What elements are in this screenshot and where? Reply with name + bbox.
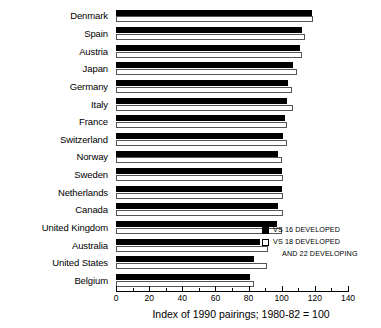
bar-group [116,168,348,184]
chart-legend: VS 16 DEVELOPED VS 18 DEVELOPED AND 22 D… [262,225,380,261]
x-tick-minor [166,288,167,291]
legend-label: VS 18 DEVELOPED [273,237,340,247]
x-tick [282,286,283,291]
bar-group [116,44,348,60]
x-tick [215,286,216,291]
x-tick-minor [331,288,332,291]
bar-developed-developing [116,263,267,269]
category-label: Japan [0,64,108,74]
x-tick [348,286,349,291]
x-tick-label: 60 [203,294,227,303]
x-axis-title: Index of 1990 pairings; 1980-82 = 100 [116,308,366,320]
bar-group [116,27,348,43]
x-tick-label: 100 [270,294,294,303]
x-axis-line [116,291,349,292]
x-tick-minor [133,288,134,291]
bar-group [116,115,348,131]
bar-developed-developing [116,157,282,163]
bar-developed-developing [116,87,292,93]
bar-developed [116,274,250,280]
category-label: Canada [0,205,108,215]
x-tick [116,286,117,291]
bar-group [116,185,348,201]
bar-group [116,150,348,166]
bar-developed-developing [116,175,283,181]
bar-developed-developing [116,52,302,58]
category-axis-labels: DenmarkSpainAustriaJapanGermanyItalyFran… [0,8,112,290]
x-tick-minor [232,288,233,291]
category-label: Australia [0,241,108,251]
category-label: Denmark [0,11,108,21]
bar-developed [116,133,283,139]
category-label: Switzerland [0,135,108,145]
bar-group [116,62,348,78]
x-tick [315,286,316,291]
bar-group [116,203,348,219]
bar-group [116,273,348,289]
legend-item-1-continuation: AND 22 DEVELOPING [262,249,380,260]
bar-developed [116,115,285,121]
bar-developed [116,186,282,192]
bar-group [116,132,348,148]
bar-developed-developing [116,34,305,40]
legend-swatch-black-icon [262,227,269,234]
bar-developed [116,221,277,227]
x-tick-label: 120 [303,294,327,303]
bar-developed [116,10,312,16]
bar-developed [116,45,300,51]
x-tick-minor [199,288,200,291]
x-tick [249,286,250,291]
bar-developed [116,256,254,262]
bar-developed [116,80,288,86]
category-label: France [0,117,108,127]
bar-developed [116,62,293,68]
x-tick-minor [298,288,299,291]
bar-developed-developing [116,16,313,22]
legend-item-1: VS 18 DEVELOPED [262,237,380,248]
category-label: Italy [0,100,108,110]
category-label: United Kingdom [0,223,108,233]
bar-developed [116,151,278,157]
category-label: Spain [0,29,108,39]
legend-label-line2: AND 22 DEVELOPING [282,249,358,259]
bar-developed-developing [116,210,283,216]
legend-item-0: VS 16 DEVELOPED [262,225,380,236]
x-tick [149,286,150,291]
bar-developed-developing [116,140,287,146]
category-label: Austria [0,47,108,57]
category-label: Norway [0,152,108,162]
bar-developed [116,203,278,209]
bar-developed [116,27,302,33]
x-tick-label: 80 [237,294,261,303]
x-tick-minor [265,288,266,291]
bar-group [116,97,348,113]
bar-developed-developing [116,105,293,111]
category-label: Netherlands [0,188,108,198]
bar-chart: DenmarkSpainAustriaJapanGermanyItalyFran… [0,0,381,328]
bar-developed [116,168,282,174]
x-tick [182,286,183,291]
bar-developed [116,239,260,245]
x-tick-label: 140 [336,294,360,303]
category-label: Sweden [0,170,108,180]
legend-swatch-white-icon [262,239,269,246]
category-label: Belgium [0,276,108,286]
bar-developed-developing [116,281,254,287]
category-label: United States [0,258,108,268]
x-tick-label: 40 [170,294,194,303]
bar-developed [116,98,287,104]
bar-developed-developing [116,228,282,234]
category-label: Germany [0,82,108,92]
bar-group [116,9,348,25]
bar-group [116,80,348,96]
bar-developed-developing [116,246,268,252]
bar-developed-developing [116,69,297,75]
x-tick-label: 20 [137,294,161,303]
x-tick-label: 0 [104,294,128,303]
bar-developed-developing [116,193,283,199]
bar-developed-developing [116,122,287,128]
legend-label: VS 16 DEVELOPED [273,225,340,235]
